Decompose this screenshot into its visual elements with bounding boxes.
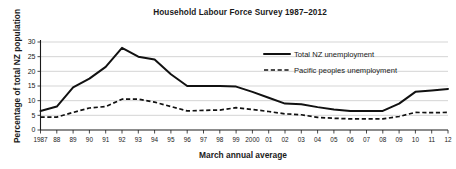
- x-tick-label: 07: [363, 136, 371, 143]
- x-tick-label: 92: [118, 136, 126, 143]
- series-line-1: [41, 48, 449, 111]
- x-tick-label: 90: [86, 136, 94, 143]
- x-tick-label: 05: [330, 136, 338, 143]
- chart-container: Household Labour Force Survey 1987–2012 …: [0, 0, 456, 169]
- x-tick-label: 12: [444, 136, 452, 143]
- y-tick-label: 10: [28, 97, 36, 104]
- x-tick-label: 99: [233, 136, 241, 143]
- x-tick-label: 01: [265, 136, 273, 143]
- y-tick-label: 25: [28, 53, 36, 60]
- x-tick-label: 95: [167, 136, 175, 143]
- x-tick-label: 10: [412, 136, 420, 143]
- data-series: [41, 48, 449, 119]
- x-tick-label: 2000: [245, 136, 260, 143]
- y-tick-label: 20: [28, 68, 36, 75]
- x-tick-label: 11: [428, 136, 435, 143]
- x-tick-label: 94: [151, 136, 159, 143]
- y-tick-label: 5: [32, 112, 36, 119]
- gridlines: [38, 42, 449, 130]
- x-tick-label: 88: [53, 136, 61, 143]
- x-tick-label: 06: [347, 136, 355, 143]
- legend-label-1: Total NZ unemployment: [294, 50, 375, 59]
- x-tick-label: 93: [135, 136, 143, 143]
- y-tick-label: 0: [32, 126, 36, 133]
- y-tick-labels: 051015202530: [28, 38, 36, 133]
- x-tick-label: 09: [396, 136, 404, 143]
- x-tick-label: 91: [102, 136, 110, 143]
- x-tick-label: 04: [314, 136, 322, 143]
- legend-label-2: Pacific peoples unemployment: [294, 66, 398, 75]
- plot-area: 051015202530 198788899091929394959697989…: [0, 0, 456, 169]
- x-tick-label: 89: [70, 136, 78, 143]
- y-tick-label: 15: [28, 82, 36, 89]
- x-tick-label: 03: [298, 136, 306, 143]
- x-tick-label: 08: [379, 136, 387, 143]
- y-tick-label: 30: [28, 38, 36, 45]
- x-tick-labels: 1987888990919293949596979899200001020304…: [33, 136, 452, 143]
- x-tick-label: 1987: [33, 136, 48, 143]
- axis-lines: [41, 40, 449, 130]
- x-tick-label: 97: [200, 136, 208, 143]
- x-tick-label: 96: [184, 136, 192, 143]
- x-tick-label: 02: [281, 136, 289, 143]
- x-tick-label: 98: [216, 136, 224, 143]
